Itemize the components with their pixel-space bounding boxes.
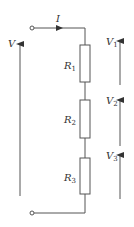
current-label: I [55, 13, 61, 24]
bottom-terminal [30, 211, 34, 215]
v2-label: V2 [106, 95, 118, 108]
resistor-r2 [80, 100, 90, 138]
current-arrow-icon [56, 25, 63, 31]
resistor-r3 [80, 158, 90, 194]
supply-voltage-label: V [8, 38, 17, 49]
top-terminal [30, 26, 34, 30]
v1-label: V1 [106, 36, 118, 49]
r1-label: R1 [63, 60, 76, 73]
series-circuit-diagram: I R1 R2 R3 V V1 V2 V3 [0, 0, 134, 227]
v3-label: V3 [106, 150, 118, 163]
resistor-r1 [80, 45, 90, 82]
bottom-wire [30, 194, 85, 215]
r3-label: R3 [63, 172, 76, 185]
r2-label: R2 [63, 114, 76, 127]
